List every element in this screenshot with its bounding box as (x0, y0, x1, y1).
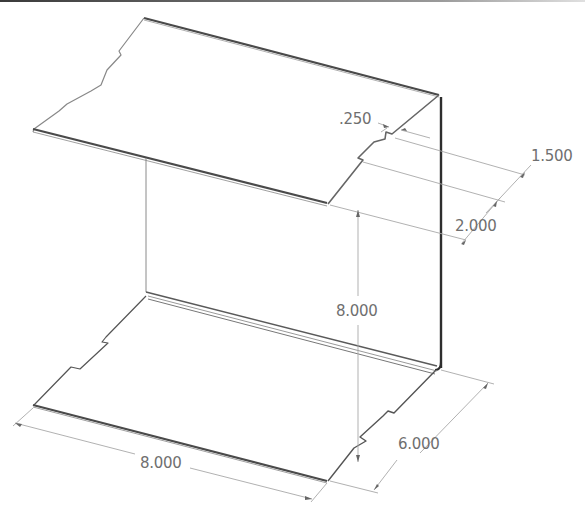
dimension-annotations (13, 123, 531, 502)
top-flange (33, 18, 439, 206)
dim-depth-label: 6.000 (398, 435, 439, 453)
dim-length-label: 8.000 (140, 454, 181, 472)
bottom-flange (33, 292, 437, 483)
dim-height-label: 8.000 (336, 302, 377, 320)
dim-tab-width-label: .250 (339, 110, 371, 128)
drawing-canvas: .250 1.500 2.000 8.000 8.000 6.000 (0, 0, 585, 515)
dimension-arrows (15, 124, 525, 500)
dim-tab-spacing-1-label: 1.500 (531, 147, 572, 165)
dim-tab-spacing-2-label: 2.000 (455, 217, 496, 235)
